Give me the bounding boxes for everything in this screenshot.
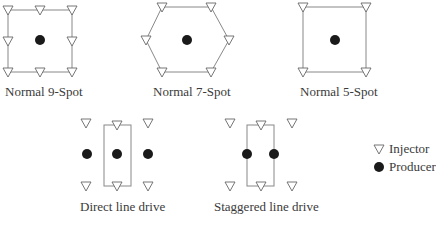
five-spot-label: Normal 5-Spot xyxy=(300,84,378,100)
producer-icon xyxy=(330,35,340,45)
legend-producer-label: Producer xyxy=(389,159,436,175)
legend-injector: Injector xyxy=(373,141,429,157)
producer-icon xyxy=(182,35,192,45)
seven-spot-pattern xyxy=(141,3,234,77)
direct-line-drive-pattern xyxy=(81,119,153,191)
producer-icon xyxy=(143,149,153,159)
direct-line-drive-label: Direct line drive xyxy=(80,199,165,215)
staggered-line-drive-pattern xyxy=(225,119,297,191)
producer-icon xyxy=(242,149,252,159)
producer-icon xyxy=(112,149,122,159)
producer-icon xyxy=(82,149,92,159)
producer-icon xyxy=(269,149,279,159)
seven-spot-label: Normal 7-Spot xyxy=(153,84,231,100)
injector-icon xyxy=(373,143,385,155)
nine-spot-label: Normal 9-Spot xyxy=(5,84,83,100)
legend-producer: Producer xyxy=(373,159,436,175)
legend-injector-label: Injector xyxy=(389,141,429,157)
staggered-line-drive-label: Staggered line drive xyxy=(214,199,319,215)
producer-icon xyxy=(373,161,385,173)
producer-icon xyxy=(35,35,45,45)
nine-spot-pattern xyxy=(3,6,77,77)
five-spot-pattern xyxy=(298,3,371,77)
